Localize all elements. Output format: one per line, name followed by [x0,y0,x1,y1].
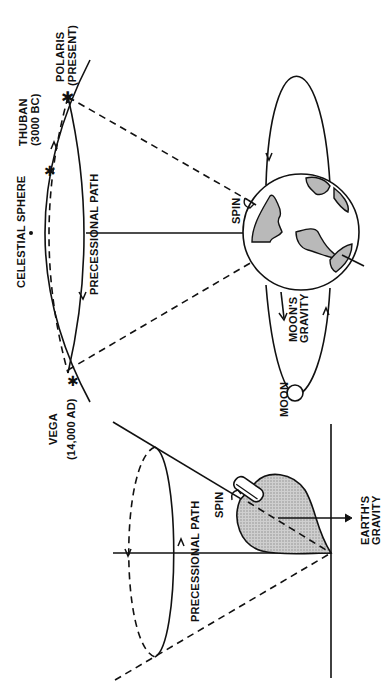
moon-label: MOON [278,382,290,417]
precessional-path-curve [68,97,84,373]
vega-star-icon: ✱ [67,373,79,389]
moons-gravity-arrow [281,292,284,318]
top-precession-ellipse-back [129,447,155,657]
earth-spin-label: SPIN [230,198,242,224]
polaris-star-icon: ✱ [61,88,74,107]
pole-dashed-path [49,97,68,373]
top-precessional-path-label: PRECESSIONAL PATH [189,501,201,622]
vega-label: VEGA [47,413,59,445]
thuban-label: THUBAN [17,98,29,146]
earth-precession-panel: ✱ ✱ ✱ [15,25,364,460]
earths-gravity-label-line2: GRAVITY [370,495,382,545]
moons-gravity-label-line2: GRAVITY [298,293,310,343]
thuban-note: (3000 BC) [29,93,41,146]
polaris-note: (PRESENT) [66,25,78,86]
ellipse-arrow-front-icon [178,539,184,546]
spinning-top-panel: PRECESSIONAL PATH SPIN EARTH'S GRAVITY [113,422,382,680]
precession-diagram: ✱ ✱ ✱ [0,0,391,690]
earths-gravity-arrowhead-icon [345,514,352,522]
celestial-sphere-dot [29,231,33,235]
top-precession-ellipse-front [155,447,174,657]
earth-globe [243,174,364,290]
celestial-sphere-label: CELESTIAL SPHERE [15,176,27,288]
thuban-star-icon: ✱ [44,163,56,179]
vega-note: (14,000 AD) [65,398,77,460]
earth-precessional-path-label: PRECESSIONAL PATH [88,174,100,295]
top-spin-label: SPIN [213,492,225,518]
pole-path-arrow-icon [51,142,57,149]
top-cone-line-lower [115,553,331,680]
polaris-label: POLARIS [54,32,66,82]
